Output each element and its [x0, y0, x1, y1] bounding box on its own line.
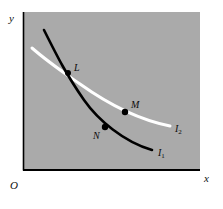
point-marker-n	[102, 124, 108, 130]
panel-texture	[23, 12, 200, 170]
curve-label-i2: I2	[175, 124, 182, 134]
point-label-n: N	[93, 131, 100, 141]
point-marker-l	[65, 70, 71, 76]
point-marker-m	[122, 109, 128, 115]
y-axis-label: y	[9, 13, 14, 24]
point-label-l: L	[74, 63, 80, 73]
origin-label: O	[10, 180, 18, 191]
point-label-m: M	[131, 100, 139, 110]
indifference-curve-figure: y x O L M N I2 I1	[0, 0, 223, 209]
figure-canvas	[0, 0, 223, 209]
x-axis-label: x	[204, 173, 209, 184]
curve-label-i2-subscript: 2	[178, 128, 182, 136]
curve-label-i1: I1	[158, 148, 165, 158]
curve-label-i1-subscript: 1	[161, 152, 165, 160]
